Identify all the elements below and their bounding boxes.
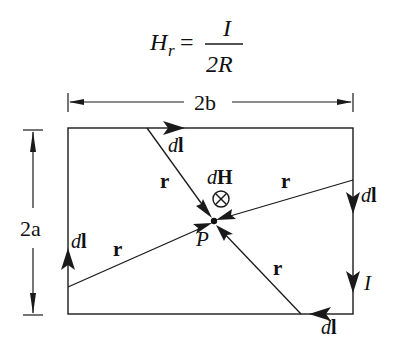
point-p-label: P: [195, 227, 209, 251]
r-label-bottom: r: [273, 256, 282, 280]
arrow-up-icon: [30, 131, 36, 152]
dl-label-right: dl: [361, 184, 377, 206]
r-line-left: [68, 225, 208, 287]
formula-lhs: H: [149, 29, 169, 55]
dl-label-top: dl: [168, 134, 184, 156]
width-dimension: 2b: [68, 90, 353, 115]
point-p-dot: [211, 218, 217, 224]
formula-denominator: 2R: [206, 51, 233, 77]
arrow-down-icon: [30, 293, 36, 314]
height-label: 2a: [20, 216, 41, 241]
current-loop: [68, 128, 353, 314]
r-arrow-bottom-icon: [216, 225, 233, 241]
arrow-left-icon: [69, 99, 84, 105]
r-label-left: r: [113, 237, 122, 261]
into-page-icon: [213, 191, 229, 207]
r-label-right: r: [281, 169, 290, 193]
r-line-bottom: [219, 228, 301, 314]
height-dimension: 2a: [20, 130, 43, 315]
r-label-top: r: [160, 169, 169, 193]
width-label: 2b: [194, 90, 216, 115]
formula-numerator: I: [222, 15, 232, 41]
current-label: I: [363, 271, 372, 295]
r-arrow-right-icon: [216, 209, 236, 220]
dl-label-left: dl: [71, 230, 87, 252]
dh-label: dH: [207, 166, 233, 188]
arrow-right-icon: [337, 99, 352, 105]
formula-lhs-subscript: r: [168, 41, 175, 60]
formula: H r = I 2R: [149, 15, 243, 77]
dl-label-bottom: dl: [321, 316, 337, 338]
formula-equals: =: [180, 29, 194, 55]
r-vectors: [68, 128, 353, 314]
r-arrow-top-icon: [196, 199, 212, 218]
rectangular-loop-diagram: H r = I 2R 2b 2a: [0, 0, 394, 358]
